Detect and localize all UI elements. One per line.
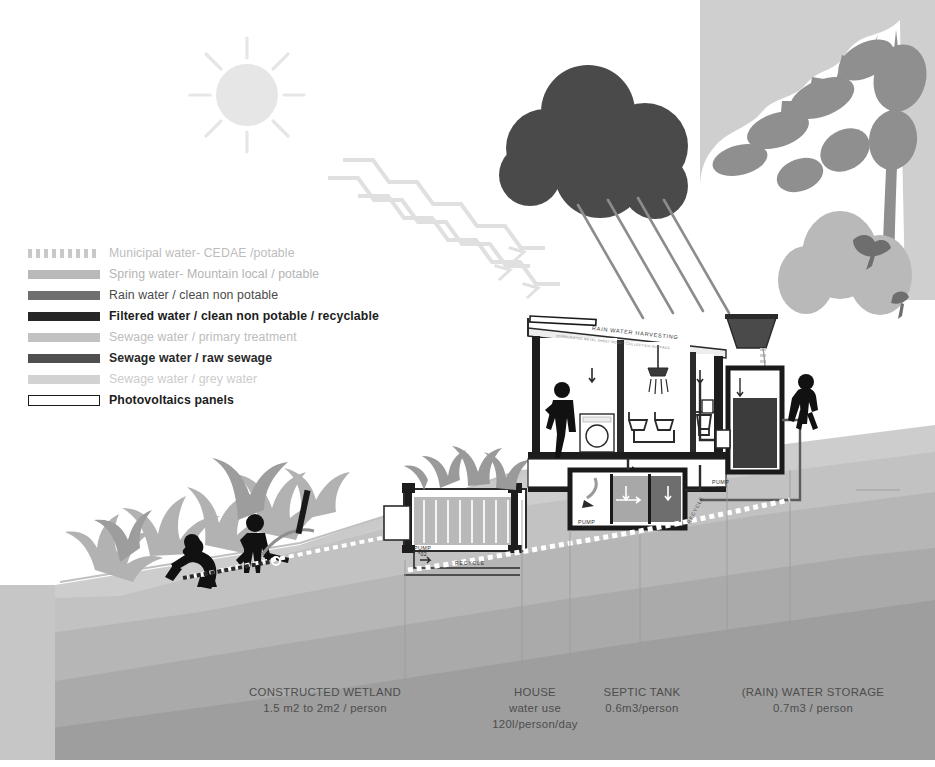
- label-constructed-wetland: CONSTRUCTED WETLAND 1.5 m2 to 2m2 / pers…: [215, 684, 435, 716]
- legend-item: Filtered water / clean non potable / rec…: [28, 306, 448, 327]
- pump-01-label: PUMP *01: [578, 519, 595, 531]
- legend-swatch-grey-water: [28, 375, 100, 384]
- pump-02-id: *02: [418, 551, 427, 557]
- label-value: 1.5 m2 to 2m2 / person: [215, 700, 435, 716]
- photovoltaic-panel: [530, 316, 596, 325]
- legend-swatch-primary-treatment: [28, 333, 100, 342]
- legend-swatch-spring: [28, 270, 100, 279]
- legend-item: Photovoltaics panels: [28, 390, 448, 411]
- label-title: SEPTIC TANK: [577, 684, 707, 700]
- legend: Municipal water- CEDAE /potable Spring w…: [28, 243, 448, 411]
- legend-label: Spring water- Mountain local / potable: [109, 268, 319, 280]
- legend-item: Sewage water / grey water: [28, 369, 448, 390]
- recycle-label-1: RECYCLE: [455, 560, 485, 566]
- rain-cloud-icon: [499, 65, 688, 219]
- label-rain-water-storage: (RAIN) WATER STORAGE 0.7m3 / person: [718, 684, 908, 716]
- rainwater-funnel: [725, 314, 778, 348]
- legend-item: Municipal water- CEDAE /potable: [28, 243, 448, 264]
- pump-03-box: [716, 430, 730, 448]
- pump-03-id: *03: [716, 485, 725, 491]
- legend-swatch-photovoltaics: [28, 395, 100, 406]
- label-septic-tank: SEPTIC TANK 0.6m3/person: [577, 684, 707, 716]
- constructed-wetland: [384, 446, 530, 553]
- label-value: 0.7m3 / person: [718, 700, 908, 716]
- legend-label: Municipal water- CEDAE /potable: [109, 247, 295, 259]
- legend-item: Sewage water / raw sewage: [28, 348, 448, 369]
- pump-02-label: PUMP *02: [414, 545, 431, 557]
- legend-swatch-rain: [28, 291, 100, 300]
- label-title: CONSTRUCTED WETLAND: [215, 684, 435, 700]
- pump-03-label: PUMP *03: [712, 479, 729, 491]
- legend-label: Sewage water / raw sewage: [109, 352, 272, 364]
- diagram-canvas: Municipal water- CEDAE /potable Spring w…: [0, 0, 935, 767]
- label-value: 0.6m3/person: [577, 700, 707, 716]
- legend-item: Sewage water / primary treatment: [28, 327, 448, 348]
- bottom-label-row: CONSTRUCTED WETLAND 1.5 m2 to 2m2 / pers…: [0, 680, 935, 760]
- legend-label: Sewage water / grey water: [109, 373, 257, 385]
- rain-water-storage-tank: [716, 368, 782, 472]
- legend-swatch-raw-sewage: [28, 354, 100, 363]
- legend-label: Photovoltaics panels: [109, 394, 234, 406]
- legend-swatch-filtered: [28, 312, 100, 321]
- label-title: (RAIN) WATER STORAGE: [718, 684, 908, 700]
- sun-icon: [190, 38, 304, 152]
- tree-silhouette: [700, 0, 935, 319]
- legend-label: Sewage water / primary treatment: [109, 331, 297, 343]
- legend-swatch-municipal: [28, 249, 100, 258]
- label-extra: 120l/person/day: [470, 716, 600, 732]
- legend-label: Filtered water / clean non potable / rec…: [109, 310, 379, 322]
- legend-item: Rain water / clean non potable: [28, 285, 448, 306]
- gardener-figure-right: [788, 374, 818, 430]
- wetland-plants: [404, 446, 530, 490]
- legend-item: Spring water- Mountain local / potable: [28, 264, 448, 285]
- pump-01-id: *01: [582, 525, 591, 531]
- cistern-icon: [702, 400, 713, 413]
- legend-label: Rain water / clean non potable: [109, 289, 278, 301]
